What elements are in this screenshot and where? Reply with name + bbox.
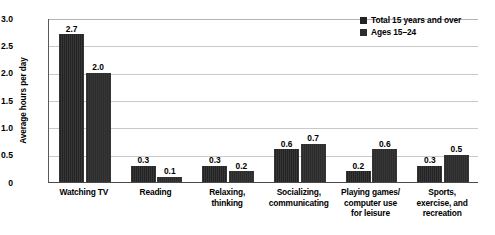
bar-column[interactable]: 0.3: [417, 19, 442, 182]
x-axis-label-line: Socializing,: [263, 187, 335, 198]
bar-group: 0.30.5: [417, 19, 469, 182]
legend-item[interactable]: Total 15 years and over: [360, 14, 461, 26]
x-axis-label-line: Watching TV: [48, 187, 120, 198]
x-axis-label-line: Playing games/: [335, 187, 407, 198]
bar[interactable]: 0.3: [417, 166, 442, 182]
bar-column[interactable]: 0.1: [157, 19, 182, 182]
bar[interactable]: 0.6: [372, 149, 397, 182]
x-axis-label-line: Reading: [120, 187, 192, 198]
x-axis-category-labels: Watching TVReadingRelaxing,thinkingSocia…: [48, 187, 478, 235]
bar[interactable]: 0.6: [274, 149, 299, 182]
x-axis-label-line: Relaxing,: [191, 187, 263, 198]
x-axis-category-label: Playing games/computer usefor leisure: [335, 187, 407, 219]
y-axis-tick-label: 2.5: [0, 42, 13, 51]
bar-value-label: 0.5: [451, 145, 463, 153]
bar-column[interactable]: 0.3: [202, 19, 227, 182]
bar-value-label: 0.7: [307, 134, 319, 142]
bar-chart: Average hours per day 00.51.01.52.02.53.…: [0, 0, 495, 235]
legend-label: Ages 15–24: [371, 28, 416, 36]
y-axis-title: Average hours per day: [19, 31, 28, 171]
bar-group: 0.30.1: [131, 19, 183, 182]
x-axis-label-line: exercise, and: [406, 198, 478, 209]
bar-value-label: 0.1: [164, 167, 176, 175]
y-axis-tick-label: 1.5: [0, 97, 13, 106]
bar[interactable]: 2.0: [86, 73, 111, 182]
y-axis-tick-label: 2.0: [0, 69, 13, 78]
bar-column[interactable]: 0.2: [229, 19, 254, 182]
bar[interactable]: 0.3: [131, 166, 156, 182]
bar-group: 0.30.2: [202, 19, 254, 182]
legend-swatch-icon: [360, 17, 367, 24]
bar-column[interactable]: 0.6: [274, 19, 299, 182]
legend-swatch-icon: [360, 29, 367, 36]
bar-column[interactable]: 0.6: [372, 19, 397, 182]
bar-value-label: 0.2: [236, 162, 248, 170]
bar[interactable]: 0.7: [301, 144, 326, 182]
x-axis-label-line: computer use: [335, 198, 407, 209]
bar-value-label: 0.2: [352, 162, 364, 170]
x-axis-label-line: for leisure: [335, 208, 407, 219]
bar-value-label: 2.7: [66, 25, 78, 33]
bar[interactable]: 0.2: [229, 171, 254, 182]
bar-value-label: 0.3: [137, 156, 149, 164]
x-axis-category-label: Sports,exercise, andrecreation: [406, 187, 478, 219]
bar-value-label: 2.0: [92, 63, 104, 71]
y-axis-tick-label: 0.5: [0, 151, 13, 160]
x-axis-label-line: Sports,: [406, 187, 478, 198]
bars-layer: 2.72.00.30.10.30.20.60.70.20.60.30.5: [49, 19, 478, 182]
bar[interactable]: 0.3: [202, 166, 227, 182]
bar-group: 0.20.6: [346, 19, 398, 182]
bar-value-label: 0.3: [424, 156, 436, 164]
x-axis-label-line: communicating: [263, 198, 335, 209]
bar-column[interactable]: 0.2: [346, 19, 371, 182]
bar-value-label: 0.6: [281, 140, 293, 148]
bar[interactable]: 0.2: [346, 171, 371, 182]
y-axis-tick-label: 0: [0, 179, 13, 188]
chart-legend: Total 15 years and overAges 15–24: [358, 13, 463, 40]
x-axis-category-label: Relaxing,thinking: [191, 187, 263, 208]
bar-group: 2.72.0: [59, 19, 111, 182]
y-axis-tick-label: 1.0: [0, 124, 13, 133]
bar-column[interactable]: 0.7: [301, 19, 326, 182]
x-axis-label-line: recreation: [406, 208, 478, 219]
bar-column[interactable]: 2.7: [59, 19, 84, 182]
bar-value-label: 0.6: [379, 140, 391, 148]
x-axis-category-label: Socializing,communicating: [263, 187, 335, 208]
x-axis-category-label: Watching TV: [48, 187, 120, 198]
bar-column[interactable]: 0.5: [444, 19, 469, 182]
bar[interactable]: 0.1: [157, 177, 182, 182]
bar-group: 0.60.7: [274, 19, 326, 182]
x-axis-label-line: thinking: [191, 198, 263, 209]
bar[interactable]: 2.7: [59, 34, 84, 182]
legend-label: Total 15 years and over: [371, 16, 461, 24]
bar-column[interactable]: 2.0: [86, 19, 111, 182]
legend-item[interactable]: Ages 15–24: [360, 26, 461, 38]
plot-area: 2.72.00.30.10.30.20.60.70.20.60.30.5: [48, 19, 478, 183]
bar-value-label: 0.3: [209, 156, 221, 164]
bar[interactable]: 0.5: [444, 155, 469, 182]
x-axis-category-label: Reading: [120, 187, 192, 198]
bar-column[interactable]: 0.3: [131, 19, 156, 182]
y-axis-tick-label: 3.0: [0, 15, 13, 24]
